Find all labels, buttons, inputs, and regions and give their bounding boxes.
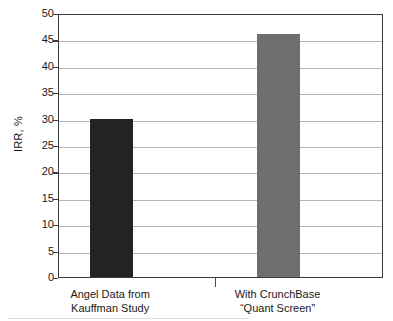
y-axis-tick-label: 30 (10, 114, 54, 125)
y-axis-tick-label: 5 (10, 246, 54, 257)
x-axis-category-label: Angel Data fromKauffman Study (30, 287, 190, 315)
bar-chart: IRR, % 05101520253035404550 Angel Data f… (0, 0, 393, 321)
scan-artifact (8, 318, 248, 319)
x-axis-category-label: With CrunchBase“Quant Screen” (198, 287, 358, 315)
y-axis-tick-label: 50 (10, 8, 54, 19)
y-axis-tick-label: 40 (10, 61, 54, 72)
y-axis-tick-label: 35 (10, 87, 54, 98)
x-axis-label-line: Angel Data from (30, 287, 190, 301)
gridline (59, 41, 382, 42)
x-axis-label-line: Kauffman Study (30, 301, 190, 315)
x-axis-label-line: With CrunchBase (198, 287, 358, 301)
gridline (59, 94, 382, 95)
y-axis-tick-label: 20 (10, 166, 54, 177)
x-axis-label-line: “Quant Screen” (198, 301, 358, 315)
plot-area (58, 14, 383, 278)
y-axis-tick-label: 45 (10, 34, 54, 45)
category-separator (215, 278, 216, 287)
y-axis-tick-label: 0 (10, 272, 54, 283)
y-axis-title: IRR, % (12, 94, 24, 174)
bar (90, 119, 133, 277)
gridline (59, 68, 382, 69)
y-axis-tick-label: 25 (10, 140, 54, 151)
bar (257, 34, 300, 277)
y-axis-tick-label: 15 (10, 193, 54, 204)
y-axis-tick-label: 10 (10, 219, 54, 230)
y-axis-tick-mark (53, 278, 58, 279)
